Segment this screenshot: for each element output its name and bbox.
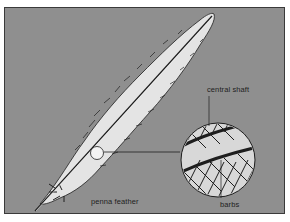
label-penna-feather: penna feather	[91, 197, 139, 206]
magnified-barbs-circle	[175, 110, 262, 202]
label-central-shaft: central shaft	[207, 85, 249, 94]
feather-illustration	[0, 0, 290, 222]
magnified-spot	[91, 147, 104, 160]
feather-shaft	[35, 16, 212, 211]
label-barbs: barbs	[220, 200, 239, 209]
